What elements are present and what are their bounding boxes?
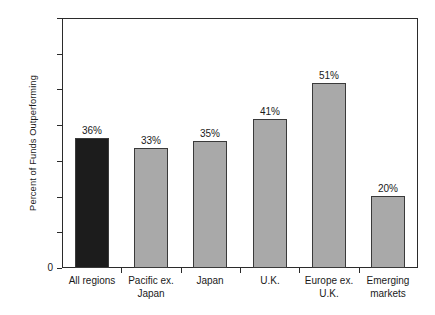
- x-axis-category-label: Japan: [176, 275, 244, 288]
- bar-value-label: 35%: [180, 128, 240, 139]
- y-axis-zero-tick-label: 0: [13, 263, 53, 273]
- bar-chart: Percent of Funds Outperforming 0 36%33%3…: [0, 0, 435, 315]
- bar: [253, 119, 287, 268]
- y-axis-tick: [57, 232, 62, 233]
- bar-value-label: 51%: [299, 70, 359, 81]
- plot-area: [62, 18, 418, 268]
- y-axis-tick: [57, 197, 62, 198]
- x-axis-category-label: All regions: [58, 275, 126, 288]
- y-axis-tick: [57, 89, 62, 90]
- y-axis-tick: [57, 18, 62, 19]
- x-axis-tick: [181, 268, 182, 273]
- y-axis-tick: [57, 268, 62, 269]
- bar-value-label: 20%: [358, 183, 418, 194]
- x-axis-tick: [240, 268, 241, 273]
- bar: [371, 196, 405, 268]
- bar: [75, 138, 109, 268]
- y-axis-tick: [57, 54, 62, 55]
- x-axis-category-label: Europe ex. U.K.: [295, 275, 363, 300]
- x-axis-category-label: Emerging markets: [354, 275, 422, 300]
- bar-value-label: 33%: [121, 135, 181, 146]
- bar-value-label: 41%: [240, 106, 300, 117]
- y-axis-tick: [57, 161, 62, 162]
- x-axis-category-label: U.K.: [236, 275, 304, 288]
- x-axis-tick: [359, 268, 360, 273]
- bar-value-label: 36%: [62, 125, 122, 136]
- bar: [134, 148, 168, 268]
- x-axis-tick: [121, 268, 122, 273]
- bar: [312, 83, 346, 268]
- bar: [193, 141, 227, 268]
- y-axis-title: Percent of Funds Outperforming: [26, 18, 40, 268]
- x-axis-tick: [299, 268, 300, 273]
- x-axis-category-label: Pacific ex. Japan: [117, 275, 185, 300]
